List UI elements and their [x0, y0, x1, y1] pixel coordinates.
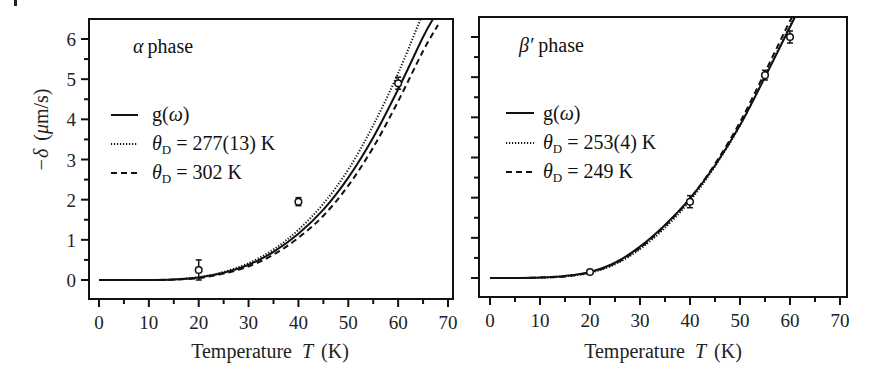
data-point [762, 72, 769, 79]
legend-label-g-omega: g(ω) [152, 103, 189, 126]
x-tick-label: 70 [439, 312, 458, 333]
figure: 0123456 010203040506070 αphase g(ω) θD =… [0, 0, 883, 377]
data-point [687, 198, 694, 205]
x-axis-title: TemperatureT(K) [191, 340, 349, 363]
phase-symbol: β′ [518, 34, 534, 57]
y-axis-ticks [471, 37, 479, 278]
y-tick-label: 1 [67, 230, 77, 251]
phase-text: phase [538, 34, 584, 57]
panel-beta-prime-phase: 010203040506070 β′phase g(ω) θD = 253(4)… [471, 16, 850, 363]
x-axis-ticks: 010203040506070 [94, 299, 457, 333]
corner-mark [14, 0, 17, 6]
y-axis-title: −δ(μm/s) [30, 88, 53, 171]
legend-label-g-omega: g(ω) [543, 102, 580, 125]
data-point [395, 80, 402, 87]
x-tick-label: 20 [581, 310, 600, 331]
y-tick-label: 6 [67, 29, 77, 50]
legend-label-theta-302: θD = 302 K [152, 161, 242, 186]
x-tick-label: 20 [189, 312, 208, 333]
y-tick-label: 5 [67, 69, 77, 90]
phase-symbol: α [133, 35, 144, 57]
y-tick-label: 4 [67, 109, 77, 130]
data-points [587, 31, 794, 275]
data-point [787, 34, 794, 41]
x-tick-label: 0 [94, 312, 104, 333]
x-tick-label: 0 [485, 310, 495, 331]
plot-frame [479, 17, 847, 297]
x-tick-label: 40 [681, 310, 700, 331]
x-tick-label: 60 [389, 312, 408, 333]
x-tick-label: 70 [831, 310, 850, 331]
x-tick-label: 50 [339, 312, 358, 333]
x-axis-title: TemperatureT(K) [584, 340, 742, 363]
x-tick-label: 10 [139, 312, 158, 333]
data-point [295, 198, 302, 205]
legend-label-theta-253: θD = 253(4) K [543, 131, 657, 156]
legend-label-theta-249: θD = 249 K [543, 160, 633, 185]
y-tick-label: 2 [67, 190, 77, 211]
data-point [587, 269, 594, 276]
phase-text: phase [148, 35, 194, 58]
legend: g(ω) θD = 253(4) K θD = 249 K [506, 102, 657, 185]
legend-label-theta-277: θD = 277(13) K [152, 132, 276, 157]
x-tick-label: 40 [289, 312, 308, 333]
phase-label: β′phase [518, 34, 584, 57]
panel-alpha-phase: 0123456 010203040506070 αphase g(ω) θD =… [30, 19, 458, 363]
data-point [195, 267, 202, 274]
x-tick-label: 10 [531, 310, 550, 331]
x-tick-label: 30 [631, 310, 650, 331]
y-tick-label: 0 [67, 270, 77, 291]
y-axis-ticks: 0123456 [67, 29, 90, 291]
x-tick-label: 60 [781, 310, 800, 331]
x-axis-ticks: 010203040506070 [485, 297, 849, 331]
x-tick-label: 30 [239, 312, 258, 333]
y-tick-label: 3 [67, 150, 77, 171]
phase-label: αphase [133, 35, 193, 58]
legend: g(ω) θD = 277(13) K θD = 302 K [111, 103, 276, 186]
x-tick-label: 50 [731, 310, 750, 331]
